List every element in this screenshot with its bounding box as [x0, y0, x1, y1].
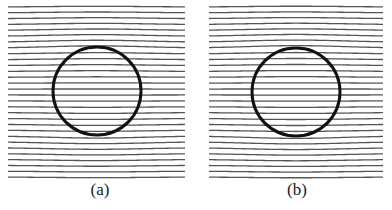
field-line	[209, 12, 383, 13]
field-line	[209, 65, 383, 66]
field-line	[209, 154, 383, 155]
field-line	[8, 53, 185, 54]
field-line	[8, 12, 185, 13]
field-line	[8, 29, 185, 30]
field-line	[8, 130, 185, 131]
figure-canvas	[0, 0, 392, 210]
field-line	[8, 142, 185, 144]
field-line	[209, 177, 383, 178]
field-line	[209, 71, 383, 72]
field-line	[209, 23, 383, 24]
field-line	[209, 166, 383, 167]
field-line	[8, 107, 185, 108]
field-line	[8, 154, 185, 155]
field-line	[209, 113, 383, 114]
field-line	[8, 71, 185, 72]
panel-b-label: (b)	[267, 180, 327, 200]
field-line	[209, 53, 383, 54]
field-line	[8, 23, 185, 24]
field-line	[209, 77, 383, 78]
field-line	[209, 124, 383, 125]
field-line	[209, 142, 383, 144]
field-line	[8, 119, 185, 120]
field-line	[8, 40, 185, 42]
field-line	[209, 160, 383, 161]
panel-a-label: (a)	[70, 180, 130, 200]
field-line	[209, 29, 383, 30]
field-line	[209, 171, 383, 172]
field-line	[209, 34, 383, 35]
field-line	[8, 165, 185, 166]
field-line	[8, 160, 185, 161]
field-line	[8, 171, 185, 172]
field-line	[8, 148, 185, 149]
field-line	[8, 18, 185, 19]
field-line	[209, 130, 383, 131]
field-line	[209, 18, 383, 19]
panel-b-circle	[252, 48, 340, 136]
field-line	[209, 40, 383, 42]
field-line	[209, 148, 383, 149]
field-line	[8, 35, 185, 36]
field-line	[8, 177, 185, 178]
field-line	[209, 6, 383, 7]
panel-b-field-lines	[209, 6, 383, 178]
panel-a-circle	[53, 47, 141, 135]
field-line	[8, 59, 185, 60]
field-line	[8, 124, 185, 125]
field-line	[8, 113, 185, 114]
field-line	[8, 6, 185, 7]
field-line	[209, 119, 383, 120]
field-line	[209, 58, 383, 59]
field-line	[8, 136, 185, 138]
field-line	[209, 107, 383, 108]
field-line	[8, 65, 185, 66]
panel-a-field-lines	[8, 6, 185, 177]
